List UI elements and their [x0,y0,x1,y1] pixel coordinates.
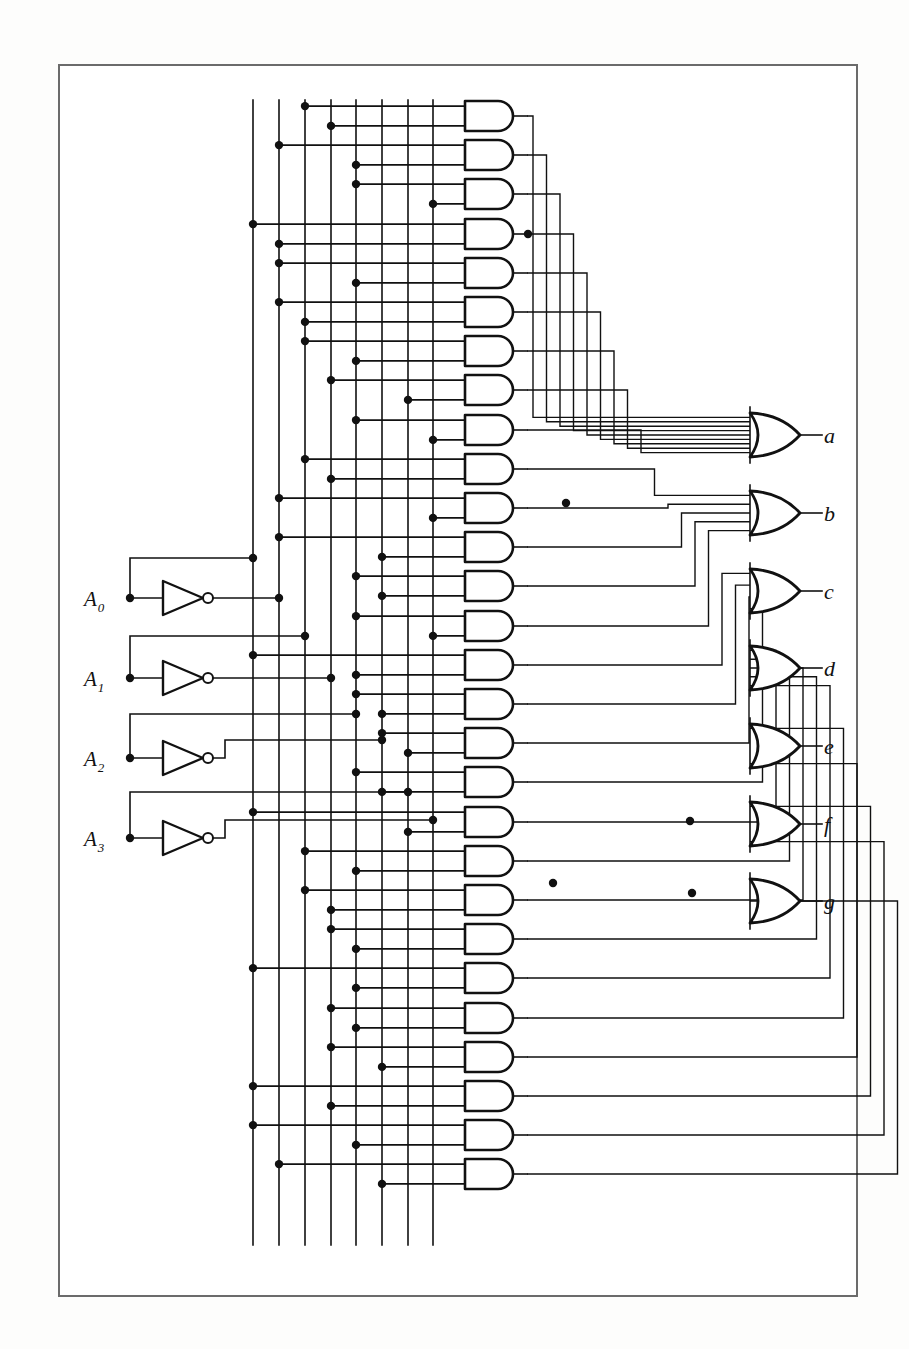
crosspoint-dot-8-2 [404,396,412,404]
or-feed-dot-3 [686,817,694,825]
crosspoint-dot-14-1 [352,612,360,620]
and-gate-24 [465,1003,513,1033]
product-to-or-a-3 [527,194,750,426]
and-gate-2 [465,140,513,170]
product-to-or-b-4 [527,522,750,586]
crosspoint-dot-27-1 [249,1121,257,1129]
junction-dot-layer [126,102,696,1188]
crosspoint-dot-5-2 [352,279,360,287]
product-to-or-b-1 [527,469,750,495]
crosspoint-dot-9-2 [429,436,437,444]
crosspoint-dot-23-1 [249,964,257,972]
inverter-2 [163,741,203,775]
and-gate-18 [465,767,513,797]
product-to-or-d-1 [527,650,776,822]
output-label-d: d [824,656,836,681]
product-to-or-b-2 [527,504,750,508]
input-label-sub-0: 0 [98,600,105,615]
input-label-sub-3: 3 [97,840,105,855]
crosspoint-dot-18-2 [378,788,386,796]
gate-layer [163,101,800,1189]
and-gate-3 [465,179,513,209]
crosspoint-dot-10-2 [327,475,335,483]
or-feed-dot-5 [549,879,557,887]
pla-circuit-svg: abcdefgA0A1A2A3 [0,0,909,1349]
input-label-3: A3 [82,827,105,855]
and-gate-5 [465,258,513,288]
product-to-or-c-2 [527,585,750,704]
crosspoint-dot-3-2 [429,200,437,208]
or-gate-b [750,491,800,535]
crosspoint-dot-15-1 [249,651,257,659]
crosspoint-dot-26-2 [327,1102,335,1110]
and-gate-20 [465,846,513,876]
product-to-or-e-2 [527,764,857,1057]
and-gate-11 [465,493,513,523]
crosspoint-dot-23-2 [352,984,360,992]
product-to-or-g-1 [527,901,898,1174]
crosspoint-dot-25-2 [378,1063,386,1071]
crosspoint-dot-8-1 [327,376,335,384]
input-label-1: A1 [82,667,104,695]
output-label-b: b [824,501,835,526]
crosspoint-dot-22-1 [327,925,335,933]
input-label-sub-2: 2 [98,760,105,775]
inverted-literal-dot-0 [275,594,283,602]
crosspoint-dot-10-1 [301,455,309,463]
inverter-bubble-2 [203,753,213,763]
and-gate-23 [465,963,513,993]
crosspoint-dot-3-1 [352,180,360,188]
true-literal-dot-0 [249,554,257,562]
crosspoint-dot-12-1 [275,533,283,541]
inverter-0 [163,581,203,615]
and-gate-13 [465,571,513,601]
crosspoint-dot-14-2 [429,632,437,640]
crosspoint-dot-24-1 [327,1004,335,1012]
product-to-or-e-1 [527,728,844,1018]
and-gate-8 [465,375,513,405]
crosspoint-dot-12-2 [378,553,386,561]
crosspoint-dot-17-1 [378,729,386,737]
crosspoint-dot-4-1 [249,220,257,228]
crosspoint-dot-1-1 [301,102,309,110]
output-label-f: f [824,812,833,837]
crosspoint-dot-1-2 [327,122,335,130]
and-gate-16 [465,689,513,719]
crosspoint-dot-7-2 [352,357,360,365]
product-to-or-d-3 [527,668,803,900]
product-to-or-c-4 [527,609,763,782]
input-label-2: A2 [82,747,105,775]
crosspoint-dot-4-2 [275,240,283,248]
true-literal-dot-2 [352,710,360,718]
output-label-c: c [824,579,834,604]
crosspoint-dot-28-1 [275,1160,283,1168]
product-to-or-b-5 [527,531,750,626]
input-terminal-dot-3 [126,834,134,842]
crosspoint-dot-2-1 [275,141,283,149]
crosspoint-dot-24-2 [352,1024,360,1032]
crosspoint-dot-9-1 [352,416,360,424]
and-gate-26 [465,1081,513,1111]
inverter-3 [163,821,203,855]
or-gate-e [750,724,800,768]
or-gate-f [750,802,800,846]
crosspoint-dot-20-2 [352,867,360,875]
and-gate-22 [465,924,513,954]
input-terminal-dot-0 [126,594,134,602]
and-gate-21 [465,885,513,915]
true-literal-dot-1 [301,632,309,640]
crosspoint-dot-6-1 [275,298,283,306]
or-feed-dot-4 [688,889,696,897]
crosspoint-dot-18-1 [352,768,360,776]
output-label-a: a [824,423,835,448]
or-gate-d [750,646,800,690]
inverted-literal-wire-3 [213,820,433,838]
crosspoint-dot-19-1 [249,808,257,816]
or-gate-a [750,413,800,457]
or-feed-dot-1 [524,230,532,238]
input-label-sub-1: 1 [98,680,105,695]
inverter-bubble-3 [203,833,213,843]
crosspoint-dot-11-2 [429,514,437,522]
and-gate-15 [465,650,513,680]
or-feed-dot-2 [562,499,570,507]
